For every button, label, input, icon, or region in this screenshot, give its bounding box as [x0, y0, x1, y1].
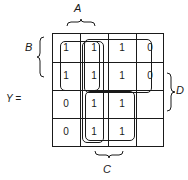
brace-c-icon — [94, 150, 124, 160]
brace-d-icon — [166, 72, 176, 112]
map-cell — [136, 118, 164, 146]
variable-label-b: B — [25, 42, 32, 53]
grid-line — [52, 146, 164, 147]
grouping-loop-cols-2-3-bottom — [85, 91, 135, 141]
map-cell — [136, 90, 164, 118]
variable-label-d: D — [176, 85, 184, 96]
variable-label-c: C — [103, 164, 111, 175]
function-label-y: Y = — [6, 93, 21, 104]
karnaugh-map-grid: 1 1 1 0 1 1 1 0 0 1 1 0 1 1 — [52, 33, 164, 147]
map-cell: 0 — [52, 90, 80, 118]
brace-b-icon — [36, 36, 46, 78]
map-cell: 0 — [52, 118, 80, 146]
variable-label-a: A — [74, 3, 81, 14]
brace-a-icon — [66, 18, 96, 28]
